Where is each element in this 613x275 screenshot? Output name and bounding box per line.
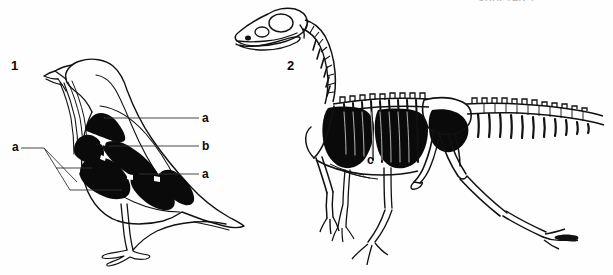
bird-neck-left-contour: [66, 79, 92, 112]
anatomy-illustration: [0, 0, 613, 275]
theropod-femur-far: [384, 168, 385, 208]
leader-a-left-branch-upper: [44, 148, 77, 182]
theropod-coracoid: [306, 127, 314, 158]
panel-number-2: 2: [287, 59, 294, 72]
theropod-naris: [245, 36, 251, 41]
bird-foot: [102, 250, 150, 266]
theropod-antorbital-fenestra: [255, 27, 269, 37]
label-a-left: a: [12, 141, 19, 153]
theropod-skeleton: [235, 8, 604, 265]
theropod-pubic-boot: [411, 182, 422, 189]
theropod-tibia-near-back: [467, 176, 507, 213]
theropod-forearm-back: [332, 192, 333, 217]
bronchus-nick-3: [127, 174, 133, 180]
leader-a-left-branch-lower: [44, 148, 70, 190]
theropod-foot-far: [352, 243, 388, 265]
theropod-femur-far-back: [391, 168, 392, 208]
theropod-forelimb-far: [338, 170, 350, 227]
theropod-hand-far: [332, 227, 354, 242]
label-a-top-right: a: [202, 112, 209, 124]
label-c-skeleton: c: [367, 154, 374, 166]
bronchus-nick-5: [121, 118, 126, 124]
bird-leg-left-back: [127, 204, 133, 250]
label-b-right: b: [202, 140, 209, 152]
theropod-metatarsus-near: [503, 216, 543, 237]
figure-root: CHAPTER 4: [0, 0, 613, 275]
bird-leg-left: [121, 204, 127, 250]
panel-number-1: 1: [11, 59, 18, 72]
theropod-tibia-near: [460, 179, 500, 216]
bird-trachea-line-1: [60, 83, 74, 154]
theropod-forearm: [326, 193, 327, 218]
theropod-humerus-back: [322, 157, 333, 192]
label-a-lower-right: a: [202, 168, 209, 180]
bird-figure: [44, 59, 244, 266]
theropod-orbit: [269, 14, 293, 32]
bronchus-nick-4: [154, 176, 160, 182]
theropod-jaw-joint: [300, 25, 304, 38]
theropod-tibia-far: [368, 210, 385, 242]
